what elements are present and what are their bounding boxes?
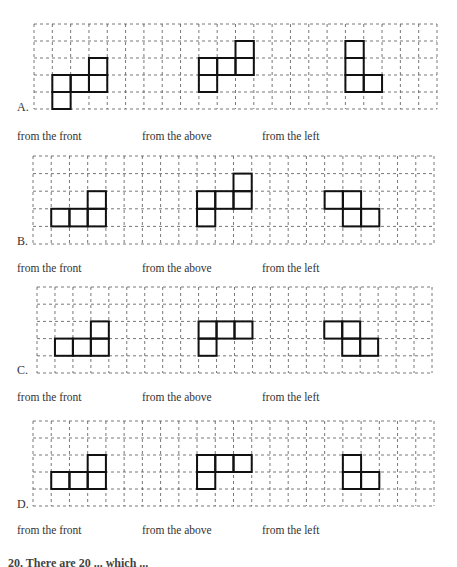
caption-above: from the above: [142, 130, 212, 142]
option-a-grid: [32, 22, 439, 111]
caption-front: from the front: [17, 262, 82, 274]
caption-above: from the above: [142, 262, 212, 274]
view-above: [197, 455, 252, 489]
next-question-text-clipped: 20. There are 20 ... which ...: [8, 556, 148, 567]
view-above: [199, 321, 253, 355]
option-b-grid: [31, 154, 436, 246]
view-above: [197, 174, 252, 227]
option-label: D.: [17, 497, 29, 512]
caption-left: from the left: [262, 391, 319, 403]
option-d-grid: [31, 419, 436, 508]
view-front: [51, 191, 106, 226]
view-above: [199, 41, 254, 92]
option-label: A.: [17, 100, 29, 115]
caption-front: from the front: [17, 391, 82, 403]
view-front: [51, 455, 106, 489]
caption-front: from the front: [17, 130, 82, 142]
caption-left: from the left: [262, 262, 319, 274]
option-label: C.: [17, 363, 28, 378]
caption-left: from the left: [262, 130, 319, 142]
view-front: [55, 321, 109, 355]
view-front: [52, 58, 107, 109]
caption-above: from the above: [142, 391, 212, 403]
view-left: [343, 455, 379, 489]
caption-left: from the left: [262, 524, 319, 536]
option-label: B.: [17, 234, 28, 249]
option-c-grid: [35, 285, 434, 375]
view-left: [325, 191, 380, 226]
caption-front: from the front: [17, 524, 82, 536]
caption-above: from the above: [142, 524, 212, 536]
view-left: [324, 321, 378, 355]
view-left: [345, 41, 382, 92]
